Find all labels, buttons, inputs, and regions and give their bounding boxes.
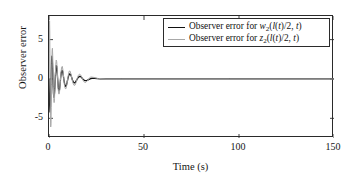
legend-swatch-w2 [168,27,185,28]
x-tick-label: 0 [28,141,68,152]
series-line-0 [49,56,334,112]
y-axis-title: Observer error [17,0,28,118]
legend[interactable]: Observer error for w2(l(t)/2, t) Observe… [163,18,330,47]
legend-swatch-z2 [168,39,185,40]
x-tick-label: 50 [123,141,163,152]
figure: Observer error 50-5 050100150 Observer e… [0,0,351,185]
legend-label-z2: Observer error for z2(l(t)/2, t) [189,32,299,47]
x-tick-label: 100 [218,141,258,152]
x-tick-label: 150 [313,141,351,152]
x-axis-title: Time (s) [48,161,333,172]
legend-item-z2[interactable]: Observer error for z2(l(t)/2, t) [168,33,326,45]
